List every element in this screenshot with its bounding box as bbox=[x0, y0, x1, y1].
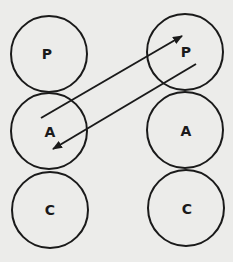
left-child-label: C bbox=[45, 202, 55, 218]
right-parent-label: P bbox=[181, 44, 191, 60]
right-child-label: C bbox=[182, 201, 192, 217]
left-parent-label: P bbox=[42, 46, 52, 62]
arrow-adult-to-parent bbox=[41, 36, 182, 118]
left-adult-label: A bbox=[45, 124, 56, 140]
right-adult-label: A bbox=[181, 123, 192, 139]
transactional-analysis-diagram: P A C P A C bbox=[0, 0, 233, 262]
arrow-parent-to-adult bbox=[53, 64, 196, 149]
